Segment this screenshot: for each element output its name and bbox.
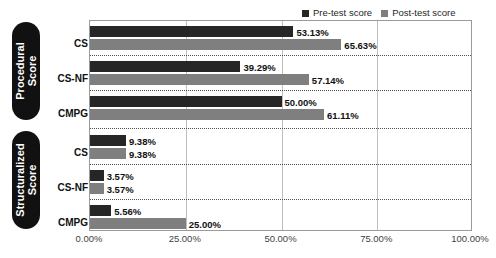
bar-pre[interactable] (90, 61, 240, 72)
bar-row-procedural-score-cmpg-pre[interactable]: 50.00% (90, 96, 473, 107)
bar-value-label: 53.13% (293, 26, 328, 37)
bar-value-label: 25.00% (186, 218, 221, 229)
bar-row-procedural-score-cs-post[interactable]: 65.63% (90, 39, 473, 50)
legend-entry-pre-test: Pre-test score (302, 8, 372, 18)
bar-post[interactable] (90, 183, 104, 194)
plot-area: 53.13%65.63%39.29%57.14%50.00%61.11%9.38… (89, 20, 472, 231)
legend-swatch-pre-test-icon (302, 10, 309, 17)
bar-pre[interactable] (90, 96, 282, 107)
chart-legend: Pre-test score Post-test score (302, 6, 456, 20)
group-banner-structuralized-text: Structuralized Score (14, 143, 38, 216)
bar-row-procedural-score-cs-nf-pre[interactable]: 39.29% (90, 61, 473, 72)
bar-post[interactable] (90, 218, 186, 229)
category-label-procedural-cs: CS (42, 38, 88, 49)
bar-pre[interactable] (90, 205, 111, 216)
group-banner-structuralized-score: Structuralized Score (12, 131, 40, 229)
chart-screenshot: Pre-test score Post-test score Procedura… (0, 0, 496, 258)
bar-value-label: 3.57% (104, 170, 134, 181)
bar-row-structuralized-score-cmpg-pre[interactable]: 5.56% (90, 205, 473, 216)
bar-pre[interactable] (90, 170, 104, 181)
xaxis-tick-0: 0.00% (76, 233, 103, 244)
group-banner-procedural-line2: Score (26, 42, 38, 99)
bar-pre[interactable] (90, 26, 293, 37)
legend-label-pre-test: Pre-test score (313, 8, 372, 18)
category-separator (90, 90, 471, 91)
bar-row-procedural-score-cs-pre[interactable]: 53.13% (90, 26, 473, 37)
xaxis-tick-25: 25.00% (169, 233, 201, 244)
category-label-structuralized-cmpg: CMPG (42, 217, 88, 228)
group-banner-procedural-line1: Procedural (14, 42, 26, 99)
bar-row-structuralized-score-cs-nf-post[interactable]: 3.57% (90, 183, 473, 194)
category-separator (90, 199, 471, 200)
bar-value-label: 65.63% (341, 39, 376, 50)
group-banner-procedural-text: Procedural Score (14, 42, 38, 99)
category-separator (90, 128, 471, 129)
bar-value-label: 50.00% (282, 96, 317, 107)
group-banner-procedural-score: Procedural Score (12, 22, 40, 120)
category-label-structuralized-cs: CS (42, 147, 88, 158)
group-banner-structuralized-line2: Score (26, 143, 38, 216)
bar-value-label: 5.56% (111, 205, 141, 216)
legend-entry-post-test: Post-test score (381, 8, 455, 18)
category-label-procedural-cs-nf: CS-NF (42, 73, 88, 84)
xaxis-tick-75: 75.00% (360, 233, 392, 244)
bar-value-label: 9.38% (126, 148, 156, 159)
bar-row-structuralized-score-cmpg-post[interactable]: 25.00% (90, 218, 473, 229)
bar-post[interactable] (90, 74, 309, 85)
category-separator (90, 55, 471, 56)
bar-row-structuralized-score-cs-nf-pre[interactable]: 3.57% (90, 170, 473, 181)
bar-value-label: 9.38% (126, 135, 156, 146)
category-label-procedural-cmpg: CMPG (42, 108, 88, 119)
category-label-structuralized-cs-nf: CS-NF (42, 182, 88, 193)
xaxis-tick-100: 100.00% (451, 233, 489, 244)
bar-value-label: 3.57% (104, 183, 134, 194)
bar-row-structuralized-score-cs-post[interactable]: 9.38% (90, 148, 473, 159)
bar-row-procedural-score-cmpg-post[interactable]: 61.11% (90, 109, 473, 120)
xaxis-tick-50: 50.00% (264, 233, 296, 244)
bar-post[interactable] (90, 148, 126, 159)
group-banner-structuralized-line1: Structuralized (14, 143, 26, 216)
bar-value-label: 57.14% (309, 74, 344, 85)
bar-value-label: 39.29% (240, 61, 275, 72)
bar-row-procedural-score-cs-nf-post[interactable]: 57.14% (90, 74, 473, 85)
bar-row-structuralized-score-cs-pre[interactable]: 9.38% (90, 135, 473, 146)
legend-label-post-test: Post-test score (392, 8, 455, 18)
bar-post[interactable] (90, 109, 324, 120)
legend-swatch-post-test-icon (381, 10, 388, 17)
bar-value-label: 61.11% (324, 109, 359, 120)
bar-post[interactable] (90, 39, 341, 50)
category-axis: CS CS-NF CMPG CS CS-NF CMPG (39, 0, 88, 258)
bar-pre[interactable] (90, 135, 126, 146)
category-separator (90, 164, 471, 165)
